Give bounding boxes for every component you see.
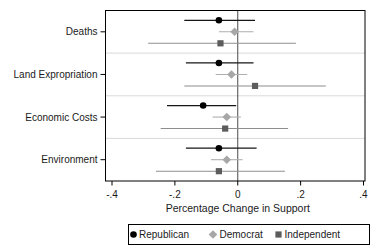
category-label: Land Expropriation	[14, 69, 98, 80]
legend-label: Republican	[139, 229, 189, 240]
legend-marker-circle	[130, 231, 137, 238]
point-marker-circle	[216, 60, 223, 67]
point-marker-square	[252, 83, 258, 89]
point-marker-diamond	[227, 70, 236, 79]
x-axis-title: Percentage Change in Support	[166, 202, 310, 214]
legend-marker-square	[275, 231, 281, 237]
category-label: Economic Costs	[25, 112, 97, 123]
point-marker-square	[216, 168, 222, 174]
point-marker-diamond	[222, 113, 231, 122]
point-marker-square	[217, 40, 223, 46]
point-marker-circle	[216, 17, 223, 24]
point-marker-diamond	[222, 155, 231, 164]
category-label: Deaths	[66, 26, 98, 37]
category-label: Environment	[41, 154, 97, 165]
x-tick-label: 0	[235, 189, 241, 200]
point-marker-circle	[200, 102, 207, 109]
x-tick-label: .2	[296, 189, 305, 200]
series-independent	[148, 40, 326, 174]
legend-label: Democrat	[220, 229, 264, 240]
point-marker-square	[222, 125, 228, 131]
series-republican	[167, 17, 257, 151]
x-tick-label: -.2	[169, 189, 181, 200]
x-tick-label: .4	[359, 189, 368, 200]
point-marker-circle	[216, 145, 223, 152]
coefficient-plot-figure: DeathsLand ExpropriationEconomic CostsEn…	[0, 0, 376, 249]
chart-canvas: DeathsLand ExpropriationEconomic CostsEn…	[0, 0, 376, 249]
legend-label: Independent	[285, 229, 341, 240]
x-tick-label: -.4	[106, 189, 118, 200]
